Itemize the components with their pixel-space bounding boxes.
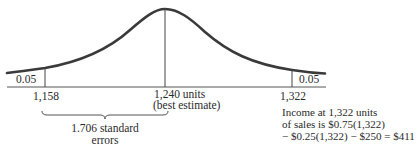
left-x-label: 1,158 (33, 90, 59, 102)
brace (42, 111, 168, 119)
brace-label-line2: errors (92, 134, 119, 146)
income-note-line2: of sales is $0.75(1,322) (282, 118, 385, 130)
right-tail-probability: 0.05 (299, 73, 319, 85)
income-note-line1: Income at 1,322 units (282, 106, 377, 118)
bell-curve (7, 9, 325, 74)
income-note-line3: − $0.25(1,322) − $250 = $411 (282, 130, 415, 142)
normal-curve-diagram: 0.05 0.05 1,158 1,240 units (best estima… (0, 0, 418, 148)
right-x-label: 1,322 (280, 90, 306, 102)
center-sub-label: (best estimate) (153, 99, 220, 111)
brace-label-line1: 1.706 standard (71, 122, 139, 134)
left-tail-probability: 0.05 (16, 73, 36, 85)
